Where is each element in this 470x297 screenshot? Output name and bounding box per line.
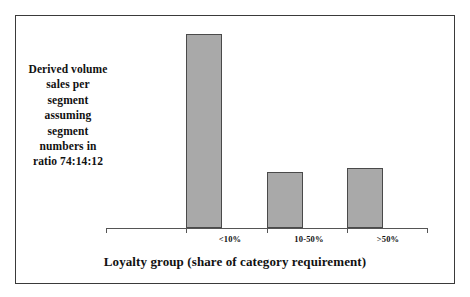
annotation-line: segment [17, 93, 119, 108]
x-axis-tick [106, 228, 107, 233]
annotation-line: sales per [17, 77, 119, 92]
bar-lt10 [186, 34, 222, 228]
bar-gt50 [347, 168, 383, 228]
bar-10-50 [267, 172, 303, 228]
x-axis-tick [427, 228, 428, 233]
x-axis-tick [267, 228, 268, 233]
annotation-line: Derived volume [17, 62, 119, 77]
x-tick-label-lt10: <10% [190, 234, 270, 244]
annotation-line: ratio 74:14:12 [17, 154, 119, 169]
annotation-line: assuming [17, 108, 119, 123]
annotation-line: segment [17, 124, 119, 139]
x-axis-title: Loyalty group (share of category require… [15, 254, 455, 270]
chart-figure: Derived volume sales per segment assumin… [0, 0, 470, 297]
chart-annotation: Derived volume sales per segment assumin… [17, 62, 119, 170]
x-tick-label-10-50: 10-50% [269, 234, 349, 244]
x-axis-tick [347, 228, 348, 233]
annotation-line: numbers in [17, 139, 119, 154]
x-tick-label-gt50: >50% [348, 234, 428, 244]
x-axis-tick [186, 228, 187, 233]
plot-area [106, 28, 428, 228]
